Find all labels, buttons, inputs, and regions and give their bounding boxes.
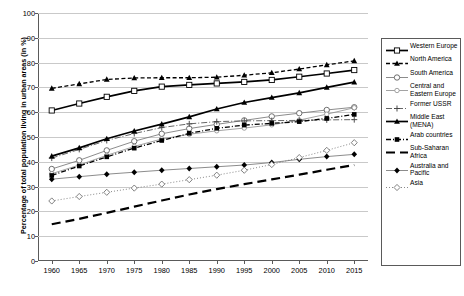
data-point [214,164,220,170]
data-point [104,155,109,160]
data-point [214,81,219,86]
data-point [242,123,247,128]
series-middle-east-mena [49,79,357,158]
y-tick-label: 90 [27,33,35,42]
data-point [351,151,357,157]
x-tick-mark [52,261,53,264]
data-point [159,138,164,143]
data-point [352,112,357,117]
legend-item-middle-east-mena[interactable]: Middle East (MENA) [385,113,458,128]
x-tick-label: 1965 [71,266,87,275]
legend-key-icon [385,162,409,173]
data-point [132,146,137,151]
data-point [49,108,54,113]
legend-item-south-america[interactable]: South America [385,69,458,80]
legend-key-icon [385,55,409,66]
chart-canvas: Percentage of total population living in… [0,0,464,296]
x-tick-label: 2005 [291,266,307,275]
data-point [159,181,165,187]
data-point [104,148,109,153]
legend-item-western-europe[interactable]: Western Europe [385,42,458,53]
series-central-and-eastern-europe [50,106,357,176]
data-point [214,126,219,131]
x-tick-mark [79,261,80,264]
data-point [241,167,247,173]
legend-item-north-america[interactable]: North America [385,55,458,66]
legend-key-icon [385,69,409,80]
data-point [132,139,137,144]
legend-item-former-ussr[interactable]: Former USSR [385,100,458,111]
data-point [351,58,357,63]
data-point [159,131,164,136]
data-point [77,158,82,163]
series-north-america [49,58,357,91]
data-point [77,101,82,106]
series-line [52,120,355,158]
y-tick-label: 10 [27,232,35,241]
series-line [52,114,355,175]
data-point [352,67,357,72]
data-point [242,79,247,84]
data-point [325,112,329,116]
series-line [52,165,355,224]
plot-area: 0102030405060708090100 19601965197019751… [38,13,368,261]
legend-item-arab-countries[interactable]: Arab countries [385,131,458,142]
x-tick-mark [107,261,108,264]
legend-item-asia[interactable]: Asia [385,179,458,190]
y-tick-label: 50 [27,133,35,142]
x-tick-mark [272,261,273,264]
data-point [131,185,137,191]
y-tick-label: 40 [27,157,35,166]
legend-key-icon [385,131,409,142]
legend-item-label: Arab countries [409,131,453,139]
x-tick-label: 2010 [319,266,335,275]
legend-key-icon [385,113,409,124]
x-tick-label: 1985 [181,266,197,275]
data-point [159,167,165,173]
data-point [324,116,329,121]
data-point [186,177,192,183]
data-point [187,131,192,136]
data-point [159,84,164,89]
data-point [297,119,302,124]
data-point [187,82,192,87]
x-tick-mark [299,261,300,264]
data-point [324,147,330,153]
x-tick-label: 1995 [236,266,252,275]
y-tick-label: 100 [23,9,35,18]
data-point [269,77,274,82]
x-tick-mark [244,261,245,264]
legend-item-australia-and-pacific[interactable]: Australia and Pacific [385,162,458,177]
data-point [297,74,302,79]
chart-legend: Western EuropeNorth AmericaSouth America… [381,38,461,266]
data-point [352,106,356,110]
x-tick-mark [134,261,135,264]
data-point [186,165,192,171]
x-tick-mark [189,261,190,264]
x-tick-label: 2000 [264,266,280,275]
x-tick-label: 1990 [209,266,225,275]
series-line [52,82,355,156]
data-point [104,94,109,99]
series-line [52,154,355,179]
x-tick-mark [327,261,328,264]
legend-item-label: Former USSR [409,100,451,108]
series-sub-saharan-africa [52,165,355,224]
data-point [104,189,110,195]
data-point [49,198,55,204]
x-tick-mark [354,261,355,264]
series-asia [49,140,358,204]
data-point [104,171,110,177]
series-layer [38,13,368,261]
legend-item-label: Sub-Saharan Africa [409,144,458,159]
legend-key-icon [385,100,409,111]
data-point [269,121,274,126]
legend-item-sub-saharan-africa[interactable]: Sub-Saharan Africa [385,144,458,159]
legend-item-label: Australia and Pacific [409,162,458,177]
y-tick-mark [35,261,38,262]
data-point [131,169,137,175]
legend-item-central-and-eastern-europe[interactable]: Central and Eastern Europe [385,82,458,97]
legend-key-icon [385,179,409,190]
legend-item-label: South America [409,69,453,77]
data-point [324,154,330,160]
